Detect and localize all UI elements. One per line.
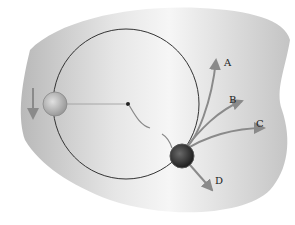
- ball-dark: [170, 144, 194, 168]
- ball-left: [43, 92, 67, 116]
- diagram-stage: A B C D: [0, 0, 295, 225]
- label-c: C: [256, 118, 264, 129]
- label-a: A: [223, 57, 232, 68]
- label-b: B: [229, 94, 236, 105]
- label-d: D: [215, 175, 223, 186]
- circular-motion-diagram: A B C D: [0, 0, 295, 225]
